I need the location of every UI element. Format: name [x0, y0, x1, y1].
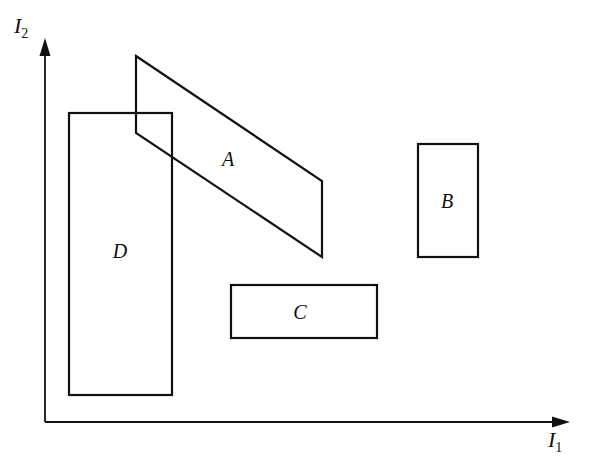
feature-space-diagram: I2 I1 D A B C — [0, 0, 591, 466]
x-axis-arrowhead-icon — [552, 417, 570, 428]
region-a: A — [136, 56, 322, 257]
y-axis-arrowhead-icon — [40, 38, 51, 56]
region-d: D — [69, 113, 172, 395]
axes: I2 I1 — [13, 13, 570, 455]
region-a-label: A — [220, 148, 235, 170]
x-axis-label: I1 — [547, 427, 562, 455]
region-b: B — [418, 144, 478, 257]
region-b-label: B — [441, 190, 453, 212]
region-c-label: C — [293, 301, 307, 323]
region-d-label: D — [112, 240, 128, 262]
y-axis-label: I2 — [13, 13, 28, 41]
region-c: C — [231, 285, 377, 338]
